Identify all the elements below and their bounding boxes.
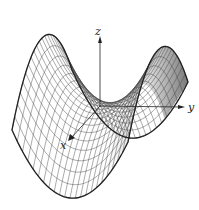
y-axis-arrowhead-icon: [178, 105, 185, 109]
y-axis-label: y: [187, 101, 195, 114]
saddle-surface-figure: z y x: [0, 0, 199, 210]
saddle-surface-plot: z y x: [0, 0, 199, 210]
z-axis-label: z: [94, 25, 101, 38]
surface-shading: [105, 46, 188, 179]
mesh-line-u: [48, 35, 164, 103]
x-axis-label: x: [60, 139, 67, 152]
mesh-line-v: [38, 81, 98, 177]
